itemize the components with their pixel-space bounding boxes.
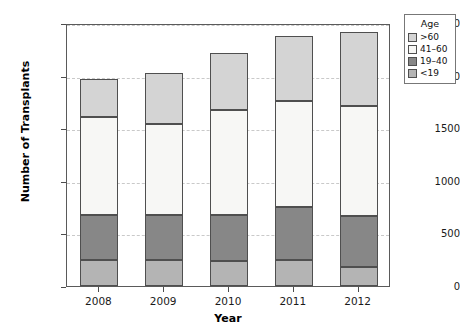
bar-2008[interactable] — [80, 23, 118, 286]
bar-segment-2008-<19[interactable] — [80, 260, 118, 286]
legend-label: <19 — [420, 68, 439, 78]
legend-swatch-icon — [408, 33, 417, 42]
bar-segment-2009->60[interactable] — [145, 73, 183, 124]
legend-entries: >6041–6019–40<19 — [408, 31, 452, 79]
bar-2012[interactable] — [340, 23, 378, 286]
x-tick-label-2012: 2012 — [328, 295, 388, 307]
y-axis-label: Number of Transplants — [19, 42, 32, 222]
bar-segment-2009-<19[interactable] — [145, 260, 183, 286]
y-tick-label: 500 — [404, 229, 460, 239]
bar-segment-2011->60[interactable] — [275, 36, 313, 101]
bar-segment-2010-19-40[interactable] — [210, 215, 248, 261]
y-tick-label: 0 — [404, 282, 460, 292]
bar-segment-2010-41-60[interactable] — [210, 110, 248, 215]
legend-swatch-icon — [408, 45, 417, 54]
bar-segment-2010->60[interactable] — [210, 53, 248, 110]
legend-entry-<19[interactable]: <19 — [408, 67, 452, 79]
y-tick-label: 1000 — [404, 177, 460, 187]
x-tick-mark-2009 — [163, 287, 164, 292]
x-tick-label-2010: 2010 — [198, 295, 258, 307]
bar-2010[interactable] — [210, 23, 248, 286]
bar-segment-2008-19-40[interactable] — [80, 215, 118, 260]
bar-segment-2012-<19[interactable] — [340, 267, 378, 286]
bar-segment-2010-<19[interactable] — [210, 261, 248, 286]
x-tick-mark-2010 — [228, 287, 229, 292]
bar-segment-2009-19-40[interactable] — [145, 215, 183, 260]
legend-label: 41–60 — [420, 44, 447, 54]
bar-2009[interactable] — [145, 23, 183, 286]
x-tick-label-2009: 2009 — [133, 295, 193, 307]
plot-area — [66, 24, 390, 287]
y-tick-mark-0 — [61, 287, 66, 288]
bar-segment-2012->60[interactable] — [340, 32, 378, 106]
x-tick-mark-2008 — [98, 287, 99, 292]
legend-title: Age — [408, 18, 452, 29]
legend-entry->60[interactable]: >60 — [408, 31, 452, 43]
transplants-by-age-chart: Number of Transplants 050010001500200025… — [0, 0, 460, 336]
legend-label: >60 — [420, 32, 439, 42]
bar-segment-2012-19-40[interactable] — [340, 216, 378, 267]
bar-segment-2011-41-60[interactable] — [275, 101, 313, 207]
legend: Age >6041–6019–40<19 — [404, 14, 456, 84]
bar-segment-2008-41-60[interactable] — [80, 117, 118, 215]
legend-entry-19–40[interactable]: 19–40 — [408, 55, 452, 67]
legend-swatch-icon — [408, 69, 417, 78]
x-tick-mark-2012 — [358, 287, 359, 292]
bar-segment-2011-19-40[interactable] — [275, 207, 313, 260]
legend-swatch-icon — [408, 57, 417, 66]
x-tick-label-2011: 2011 — [263, 295, 323, 307]
bar-segment-2008->60[interactable] — [80, 79, 118, 117]
x-axis-label: Year — [66, 312, 390, 325]
bar-segment-2012-41-60[interactable] — [340, 106, 378, 216]
x-tick-mark-2011 — [293, 287, 294, 292]
bar-segment-2009-41-60[interactable] — [145, 124, 183, 215]
y-tick-label: 1500 — [404, 124, 460, 134]
bar-2011[interactable] — [275, 23, 313, 286]
legend-entry-41–60[interactable]: 41–60 — [408, 43, 452, 55]
bar-segment-2011-<19[interactable] — [275, 260, 313, 286]
x-tick-label-2008: 2008 — [68, 295, 128, 307]
legend-label: 19–40 — [420, 56, 447, 66]
